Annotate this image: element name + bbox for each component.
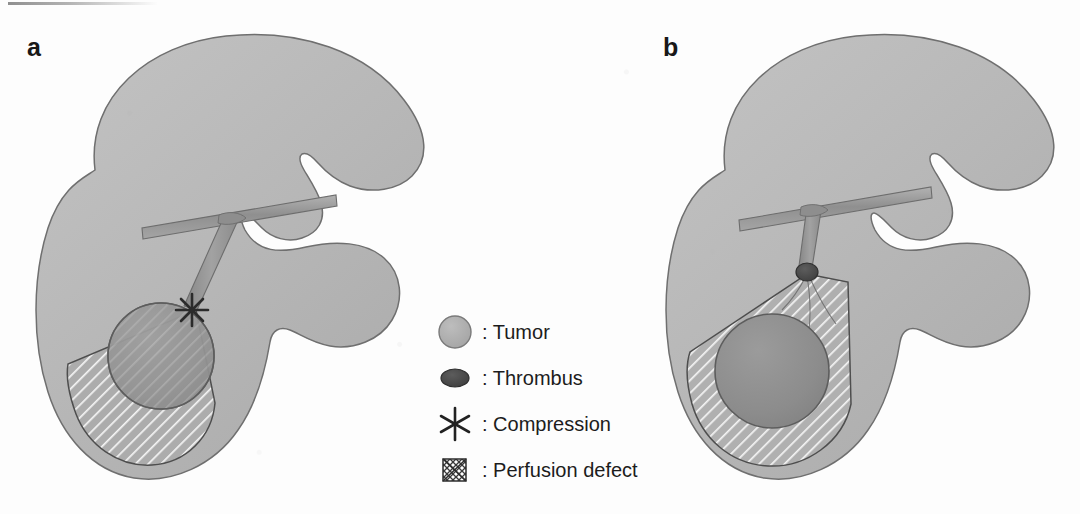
legend-item-tumor: : Tumor — [432, 312, 682, 352]
thrombus-ellipse-icon — [432, 358, 478, 398]
legend-label-thrombus: : Thrombus — [478, 367, 583, 390]
legend-label-compression: : Compression — [478, 413, 611, 436]
legend-item-thrombus: : Thrombus — [432, 358, 682, 398]
tumor-circle-icon — [432, 312, 478, 352]
legend-label-tumor: : Tumor — [478, 321, 550, 344]
panel-label-b: b — [663, 33, 678, 62]
asterisk-icon — [432, 404, 478, 444]
legend-item-perfusion-defect: : Perfusion defect — [432, 450, 682, 490]
thrombus-b — [796, 263, 818, 281]
legend: : Tumor : Thrombus : Compres — [432, 312, 682, 496]
panel-a — [36, 34, 424, 479]
legend-label-perfusion-defect: : Perfusion defect — [478, 459, 638, 482]
compression-marker-a — [176, 294, 208, 326]
crossed-box-icon — [432, 450, 478, 490]
panel-b — [666, 34, 1054, 479]
legend-item-compression: : Compression — [432, 404, 682, 444]
panel-label-a: a — [27, 33, 41, 62]
tumor-b — [715, 314, 829, 428]
